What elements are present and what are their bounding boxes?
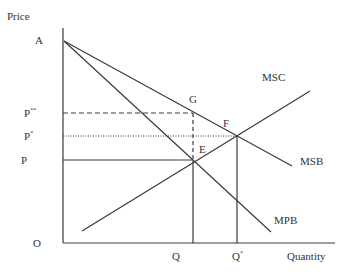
f-point-label: F (223, 117, 229, 129)
x-axis-label: Quantity (287, 250, 326, 262)
externality-diagram: Price Quantity O A P** P* P Q Q* MSC MSB… (0, 0, 351, 280)
p-label: P (21, 154, 27, 166)
msc-label: MSC (262, 71, 285, 83)
msc-curve (82, 91, 310, 231)
e-point-label: E (199, 143, 206, 155)
mpb-label: MPB (274, 214, 297, 226)
msb-curve (64, 41, 292, 166)
origin-label: O (33, 237, 41, 249)
p-double-star-label: P** (24, 107, 36, 119)
y-axis-label: Price (7, 10, 30, 22)
p-star-label: P* (24, 130, 33, 142)
g-point-label: G (189, 93, 197, 105)
mpb-curve (64, 41, 271, 232)
a-label: A (35, 34, 43, 46)
q-label: Q (172, 250, 180, 262)
msb-label: MSB (300, 155, 323, 167)
q-star-label: Q* (232, 250, 243, 262)
